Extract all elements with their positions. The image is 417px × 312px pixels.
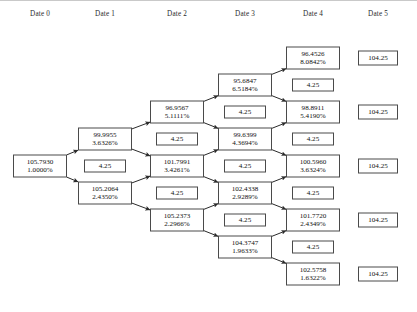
tree-edge-12 (272, 69, 286, 75)
price-rate-node-d1-0: 99.99553.6326% (78, 128, 132, 151)
price-rate-node-d1-2: 105.20642.4350% (78, 182, 132, 205)
price-rate-node-d4-2: 98.89115.4190% (286, 101, 340, 124)
coupon-value: 4.25 (307, 81, 319, 89)
terminal-payoff-node-0: 104.25 (358, 51, 398, 66)
node-rate-value: 5.1111% (165, 112, 190, 120)
price-rate-node-d3-2: 99.63994.3694% (218, 128, 272, 151)
terminal-value: 104.25 (368, 162, 388, 170)
coupon-value: 4.25 (239, 162, 251, 170)
tree-edge-8 (204, 150, 218, 156)
coupon-node-d2-3: 4.25 (156, 187, 198, 200)
coupon-node-d1-1: 4.25 (84, 160, 126, 173)
tree-edge-15 (272, 150, 286, 156)
terminal-value: 104.25 (368, 270, 388, 278)
coupon-value: 4.25 (171, 189, 183, 197)
date-header-2: Date 2 (167, 10, 187, 18)
price-rate-node-d2-2: 101.79913.4261% (150, 155, 204, 178)
node-rate-value: 2.4350% (92, 193, 117, 201)
tree-edge-4 (132, 176, 150, 183)
price-rate-node-d4-4: 100.59603.6324% (286, 155, 340, 178)
coupon-node-d3-5: 4.25 (224, 214, 266, 227)
date-header-3: Date 3 (235, 10, 255, 18)
coupon-value: 4.25 (307, 243, 319, 251)
date-header-5: Date 5 (368, 10, 388, 18)
coupon-value: 4.25 (307, 189, 319, 197)
node-rate-value: 5.4190% (300, 112, 325, 120)
tree-edge-14 (272, 123, 286, 129)
price-rate-node-d4-8: 102.57581.6322% (286, 263, 340, 286)
node-rate-value: 3.6326% (92, 139, 117, 147)
tree-edge-6 (204, 96, 218, 102)
price-rate-node-d2-4: 105.23732.2966% (150, 209, 204, 232)
price-rate-node-d3-6: 104.37471.9633% (218, 236, 272, 259)
tree-edge-17 (272, 204, 286, 210)
tree-edge-10 (204, 204, 218, 210)
terminal-value: 104.25 (368, 108, 388, 116)
date-header-1: Date 1 (95, 10, 115, 18)
coupon-value: 4.25 (239, 216, 251, 224)
coupon-node-d3-1: 4.25 (224, 106, 266, 119)
terminal-value: 104.25 (368, 54, 388, 62)
terminal-payoff-node-3: 104.25 (358, 213, 398, 228)
tree-edge-5 (132, 203, 150, 210)
tree-edge-2 (132, 122, 150, 129)
tree-edge-16 (272, 177, 286, 183)
node-rate-value: 1.9633% (232, 247, 257, 255)
price-rate-node-d4-6: 101.77202.4349% (286, 209, 340, 232)
coupon-node-d4-5: 4.25 (292, 187, 334, 200)
binomial-tree-figure: Date 0Date 1Date 2Date 3Date 4Date 5 105… (0, 0, 417, 312)
price-rate-node-d0-0: 105.79301.0000% (13, 155, 67, 178)
node-rate-value: 2.4349% (300, 220, 325, 228)
terminal-value: 104.25 (368, 216, 388, 224)
tree-edge-11 (204, 231, 218, 237)
tree-edge-1 (67, 177, 78, 182)
tree-edge-7 (204, 123, 218, 129)
terminal-payoff-node-4: 104.25 (358, 267, 398, 282)
node-rate-value: 1.6322% (300, 274, 325, 282)
price-rate-node-d3-4: 102.43382.9289% (218, 182, 272, 205)
node-rate-value: 2.9289% (232, 193, 257, 201)
coupon-value: 4.25 (171, 135, 183, 143)
coupon-value: 4.25 (307, 135, 319, 143)
node-rate-value: 6.5184% (232, 85, 257, 93)
node-rate-value: 3.4261% (164, 166, 189, 174)
coupon-node-d4-3: 4.25 (292, 133, 334, 146)
node-rate-value: 2.2966% (164, 220, 189, 228)
node-rate-value: 8.0842% (300, 58, 325, 66)
price-rate-node-d3-0: 95.68476.5184% (218, 74, 272, 97)
date-header-0: Date 0 (30, 10, 50, 18)
coupon-value: 4.25 (239, 108, 251, 116)
price-rate-node-d4-0: 96.45268.0842% (286, 47, 340, 70)
node-rate-value: 4.3694% (232, 139, 257, 147)
coupon-value: 4.25 (99, 162, 111, 170)
tree-edge-9 (204, 177, 218, 183)
node-rate-value: 3.6324% (300, 166, 325, 174)
tree-edge-3 (132, 149, 150, 156)
coupon-node-d4-7: 4.25 (292, 241, 334, 254)
coupon-node-d2-1: 4.25 (156, 133, 198, 146)
coupon-node-d4-1: 4.25 (292, 79, 334, 92)
coupon-node-d3-3: 4.25 (224, 160, 266, 173)
tree-edge-19 (272, 258, 286, 264)
price-rate-node-d2-0: 96.95675.1111% (150, 101, 204, 124)
date-header-4: Date 4 (303, 10, 323, 18)
node-rate-value: 1.0000% (27, 166, 52, 174)
tree-edge-13 (272, 96, 286, 102)
terminal-payoff-node-2: 104.25 (358, 159, 398, 174)
terminal-payoff-node-1: 104.25 (358, 105, 398, 120)
figure-top-border (0, 0, 417, 1)
tree-edge-0 (67, 150, 78, 155)
tree-edge-18 (272, 231, 286, 237)
